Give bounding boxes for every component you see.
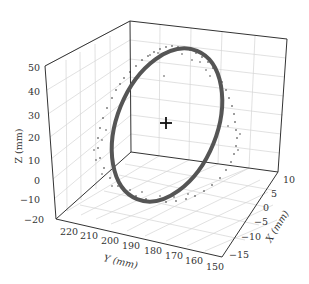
3d-scatter-chart: 50 40 30 20 10 0 −10 −20 Z (mm) 220 210 …	[0, 0, 309, 284]
svg-text:160: 160	[185, 255, 203, 266]
svg-text:0: 0	[263, 202, 269, 213]
y-axis-label: Y (mm)	[103, 252, 140, 271]
svg-text:220: 220	[60, 226, 78, 237]
z-axis-label: Z (mm)	[13, 128, 24, 163]
svg-text:20: 20	[28, 132, 40, 143]
svg-text:30: 30	[28, 110, 40, 121]
y-axis-ticks: 220 210 200 190 180 170 160 150	[60, 226, 224, 272]
svg-text:0: 0	[34, 175, 40, 186]
svg-text:5: 5	[271, 188, 277, 199]
fitted-ring	[91, 32, 244, 218]
svg-text:−10: −10	[20, 194, 40, 205]
svg-text:−5: −5	[254, 216, 268, 227]
axes-frame	[45, 21, 287, 257]
svg-text:50: 50	[28, 62, 40, 73]
svg-text:−15: −15	[229, 249, 249, 260]
svg-text:200: 200	[101, 235, 119, 246]
svg-text:210: 210	[80, 230, 98, 241]
svg-text:190: 190	[122, 240, 140, 251]
svg-text:180: 180	[144, 245, 162, 256]
svg-text:170: 170	[165, 250, 183, 261]
svg-text:10: 10	[28, 155, 40, 166]
svg-text:10: 10	[283, 174, 295, 185]
svg-text:150: 150	[206, 261, 224, 272]
right-wall-grid	[130, 25, 286, 168]
svg-text:−10: −10	[241, 231, 261, 242]
svg-text:−20: −20	[24, 214, 44, 225]
svg-text:40: 40	[28, 86, 40, 97]
